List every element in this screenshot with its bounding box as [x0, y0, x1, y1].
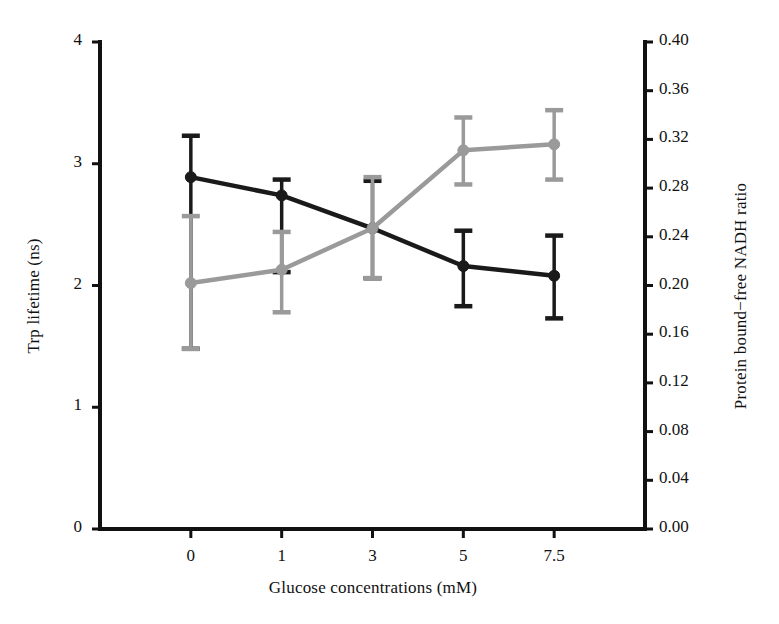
axis-frame: [100, 42, 645, 529]
data-point-marker: [185, 172, 196, 183]
data-point-marker: [276, 264, 287, 275]
y-axis-right-tick-label: 0.04: [659, 468, 719, 488]
y-axis-right-tick-label: 0.32: [659, 127, 719, 147]
chart-figure: Trp lifetime (ns) Protein bound−free NAD…: [0, 0, 779, 624]
y-axis-right-tick-label: 0.20: [659, 274, 719, 294]
data-point-marker: [185, 278, 196, 289]
x-axis-tick-label: 1: [252, 546, 312, 566]
y-axis-left-tick-label: 4: [36, 30, 82, 50]
series-2: [182, 110, 563, 349]
y-axis-left-tick-label: 1: [36, 395, 82, 415]
x-axis-tick-label: 0: [161, 546, 221, 566]
x-axis-tick-label: 5: [433, 546, 493, 566]
y-axis-left-tick-label: 3: [36, 152, 82, 172]
x-axis-title: Glucose concentrations (mM): [100, 578, 646, 598]
data-point-marker: [549, 139, 560, 150]
y-axis-right-tick-label: 0.12: [659, 371, 719, 391]
data-point-marker: [276, 190, 287, 201]
y-axis-right-tick-label: 0.28: [659, 176, 719, 196]
y-axis-right-tick-label: 0.16: [659, 322, 719, 342]
data-point-marker: [458, 145, 469, 156]
data-point-marker: [367, 223, 378, 234]
x-axis-tick-label: 7.5: [524, 546, 584, 566]
y-axis-left-title: Trp lifetime (ns): [24, 196, 44, 396]
y-axis-left-tick-label: 2: [36, 274, 82, 294]
y-axis-right-tick-label: 0.36: [659, 79, 719, 99]
y-axis-right-tick-label: 0.08: [659, 420, 719, 440]
y-axis-right-title: Protein bound−free NADH ratio: [731, 146, 751, 446]
data-point-marker: [549, 270, 560, 281]
y-axis-right-tick-label: 0.24: [659, 225, 719, 245]
x-axis-tick-label: 3: [343, 546, 403, 566]
y-axis-left-tick-label: 0: [36, 517, 82, 537]
y-axis-right-tick-label: 0.40: [659, 30, 719, 50]
y-axis-right-tick-label: 0.00: [659, 517, 719, 537]
data-point-marker: [458, 261, 469, 272]
